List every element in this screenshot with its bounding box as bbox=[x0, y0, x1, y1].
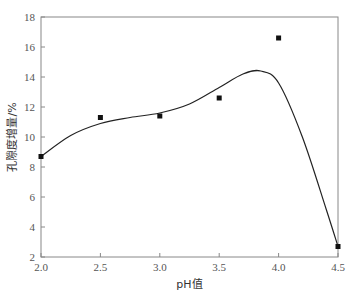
y-tick-label: 12 bbox=[24, 101, 35, 113]
y-tick-label: 18 bbox=[24, 11, 36, 23]
x-tick-label: 4.0 bbox=[272, 261, 286, 273]
x-axis: 2.02.53.03.54.04.5 bbox=[34, 253, 345, 273]
y-tick-label: 14 bbox=[24, 71, 36, 83]
x-tick-label: 3.5 bbox=[212, 261, 226, 273]
y-tick-label: 10 bbox=[24, 131, 36, 143]
data-point-marker bbox=[39, 154, 44, 159]
x-tick-label: 2.0 bbox=[34, 261, 48, 273]
y-tick-label: 16 bbox=[24, 41, 36, 53]
y-tick-label: 6 bbox=[30, 191, 36, 203]
plot-frame bbox=[41, 17, 338, 257]
y-tick-label: 4 bbox=[30, 221, 36, 233]
chart: 2.02.53.03.54.04.5 24681012141618 pH值 孔隙… bbox=[0, 0, 353, 300]
x-tick-label: 2.5 bbox=[94, 261, 108, 273]
x-tick-label: 4.5 bbox=[331, 261, 345, 273]
x-axis-title: pH值 bbox=[176, 278, 202, 291]
data-points bbox=[39, 36, 341, 250]
y-tick-label: 8 bbox=[30, 161, 36, 173]
data-point-marker bbox=[157, 114, 162, 119]
y-tick-label: 2 bbox=[30, 251, 36, 263]
y-axis-title: 孔隙度增量/% bbox=[5, 102, 19, 171]
fitted-curve bbox=[41, 70, 338, 246]
data-point-marker bbox=[276, 36, 281, 41]
data-point-marker bbox=[336, 244, 341, 249]
data-point-marker bbox=[98, 115, 103, 120]
data-point-marker bbox=[217, 96, 222, 101]
x-tick-label: 3.0 bbox=[153, 261, 167, 273]
y-axis: 24681012141618 bbox=[24, 11, 45, 263]
